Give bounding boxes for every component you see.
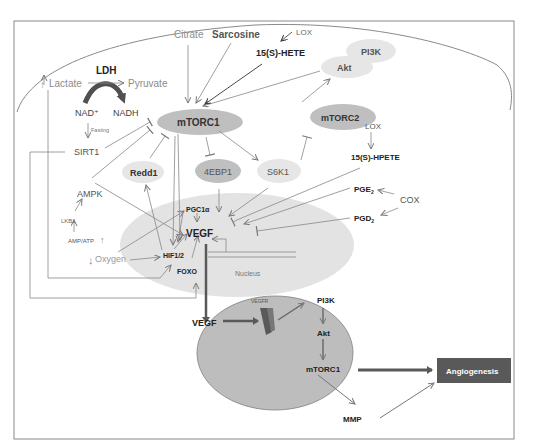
ldh-label: LDH — [96, 65, 117, 76]
pgd2-label: PGD2 — [354, 214, 374, 224]
diagram-canvas: Citrate Sarcosine LOX 15(S)-HETE PI3K Ak… — [0, 0, 535, 442]
nad-label: NAD⁺ — [75, 108, 99, 118]
cell-membrane — [17, 24, 512, 112]
mtorc1-label: mTORC1 — [177, 117, 220, 128]
mmp-label: MMP — [343, 415, 362, 424]
oxygen-down-icon: ↓ — [88, 254, 94, 266]
hif-label: HIF1/2 — [163, 252, 184, 259]
endothelial-cell — [197, 296, 353, 410]
foxo-label: FOXO — [177, 268, 197, 275]
cox-label: COX — [400, 195, 420, 205]
lox-top-label: LOX — [296, 28, 313, 37]
4ebp1-label: 4EBP1 — [204, 167, 232, 177]
lkb1-label: LKB1 — [61, 218, 76, 224]
pi3k-top-label: PI3K — [361, 47, 382, 57]
vegf-extracellular-label: VEGF — [192, 318, 217, 328]
mtorc2-label: mTORC2 — [321, 113, 359, 123]
ampatp-label: AMP/ATP — [68, 238, 94, 244]
akt-endo-label: Akt — [317, 329, 330, 338]
fasting-label: Fasting — [91, 127, 109, 133]
hpete-label: 15(S)-HPETE — [351, 153, 401, 162]
nucleus-ellipse — [120, 193, 354, 297]
pge2-label: PGE2 — [354, 185, 374, 195]
vegf-nucleus-label: VEGF — [186, 228, 213, 239]
pyruvate-label: Pyruvate — [128, 78, 168, 89]
sirt1-label: SIRT1 — [74, 147, 99, 157]
hete-label: 15(S)-HETE — [256, 48, 305, 58]
angiogenesis-label: Angiogenesis — [446, 367, 499, 376]
oxygen-label: Oxygen — [95, 254, 126, 264]
sarcosine-label: Sarcosine — [212, 29, 260, 40]
pgc1a-label: PGC1α — [186, 206, 210, 213]
citrate-label: Citrate — [174, 29, 204, 40]
lactate-up-icon: ↑ — [40, 79, 45, 90]
vegfr-label: VEGFR — [251, 298, 269, 304]
ldh-cycle-arrow — [85, 84, 123, 103]
nucleus-label: Nucleus — [235, 270, 261, 277]
lox-mid-label: LOX — [365, 122, 382, 131]
mtorc1-endo-label: mTORC1 — [306, 365, 341, 374]
lactate-label: Lactate — [49, 78, 82, 89]
redd1-label: Redd1 — [130, 168, 158, 178]
s6k1-label: S6K1 — [267, 167, 289, 177]
nadh-label: NADH — [113, 108, 139, 118]
ampk-label: AMPK — [77, 189, 103, 199]
ampatp-up-icon: ↑ — [100, 235, 105, 245]
akt-top-label: Akt — [337, 63, 352, 73]
pi3k-endo-label: PI3K — [317, 296, 335, 305]
